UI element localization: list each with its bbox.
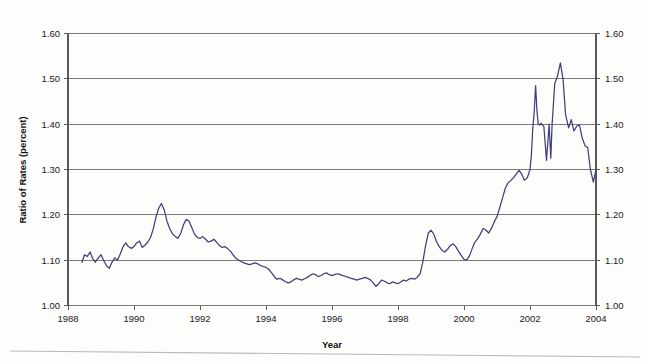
gridlines	[68, 34, 596, 306]
x-tick-label: 1994	[255, 313, 276, 324]
ratio-of-rates-line-chart: 1.001.101.201.301.401.501.60 1.001.101.2…	[0, 0, 648, 364]
y-tick-label-right: 1.50	[605, 73, 624, 84]
y-tick-label-right: 1.20	[605, 209, 624, 220]
x-tick-label: 2002	[519, 313, 540, 324]
y-tick-label-left: 1.10	[42, 255, 61, 266]
y-tick-label-left: 1.40	[42, 119, 61, 130]
x-tick-label: 1998	[387, 313, 408, 324]
y-tick-label-right: 1.30	[605, 164, 624, 175]
y-tick-label-right: 1.40	[605, 119, 624, 130]
y-tick-label-left: 1.30	[42, 164, 61, 175]
chart-figure: 1.001.101.201.301.401.501.60 1.001.101.2…	[0, 0, 648, 364]
footer-divider	[10, 351, 640, 357]
x-tick-label: 2000	[453, 313, 474, 324]
x-tick-label: 1990	[123, 313, 144, 324]
x-axis-tick-labels: 198819901992199419961998200020022004	[57, 313, 606, 324]
x-axis-title: Year	[322, 339, 342, 350]
y-tick-label-left: 1.00	[42, 300, 61, 311]
x-tick-label: 2004	[585, 313, 606, 324]
x-tick-label: 1992	[189, 313, 210, 324]
x-tick-label: 1988	[57, 313, 78, 324]
y-tick-label-right: 1.00	[605, 300, 624, 311]
y-tick-label-left: 1.50	[42, 73, 61, 84]
y-tick-label-left: 1.60	[42, 28, 61, 39]
data-series-line	[82, 63, 596, 286]
y-tick-label-right: 1.10	[605, 255, 624, 266]
y-axis-left-tick-labels: 1.001.101.201.301.401.501.60	[42, 28, 61, 311]
x-tick-label: 1996	[321, 313, 342, 324]
y-tick-label-left: 1.20	[42, 209, 61, 220]
y-axis-title: Ratio of Rates (percent)	[17, 116, 28, 223]
y-axis-right-tick-labels: 1.001.101.201.301.401.501.60	[605, 28, 624, 311]
y-tick-label-right: 1.60	[605, 28, 624, 39]
